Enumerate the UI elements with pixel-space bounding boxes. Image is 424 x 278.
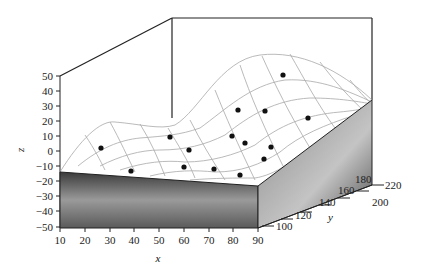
base-front-face — [60, 172, 258, 228]
z-axis-ticks — [56, 76, 60, 227]
svg-text:140: 140 — [319, 196, 336, 208]
svg-text:180: 180 — [355, 173, 372, 185]
svg-text:160: 160 — [338, 184, 355, 196]
z-axis-title: z — [14, 147, 26, 153]
svg-text:10: 10 — [42, 130, 54, 142]
svg-text:220: 220 — [385, 179, 402, 191]
svg-text:200: 200 — [372, 196, 389, 208]
svg-text:0: 0 — [48, 145, 54, 157]
svg-text:−30: −30 — [36, 190, 54, 202]
svg-text:40: 40 — [42, 85, 54, 97]
svg-text:−20: −20 — [36, 175, 54, 187]
svg-text:70: 70 — [204, 234, 216, 246]
svg-text:20: 20 — [42, 115, 54, 127]
svg-text:90: 90 — [253, 234, 265, 246]
surface-chart: 50 40 30 20 10 0 −10 −20 −30 −40 −50 z 1… — [0, 0, 424, 278]
y-axis-title: y — [327, 211, 333, 223]
back-frame — [60, 18, 372, 118]
svg-text:100: 100 — [276, 220, 293, 232]
z-axis-labels: 50 40 30 20 10 0 −10 −20 −30 −40 −50 — [36, 70, 54, 233]
svg-text:40: 40 — [129, 234, 141, 246]
svg-text:−10: −10 — [36, 160, 54, 172]
svg-text:50: 50 — [154, 234, 166, 246]
svg-text:−40: −40 — [36, 205, 54, 217]
svg-text:60: 60 — [179, 234, 191, 246]
x-axis-labels: 10 20 30 40 50 60 70 80 90 — [55, 234, 265, 246]
svg-text:30: 30 — [42, 100, 54, 112]
base-side-face — [258, 100, 372, 228]
svg-text:10: 10 — [55, 234, 67, 246]
svg-text:−50: −50 — [36, 221, 54, 233]
svg-text:80: 80 — [228, 234, 240, 246]
svg-text:50: 50 — [42, 70, 54, 82]
svg-text:120: 120 — [295, 209, 312, 221]
svg-text:30: 30 — [105, 234, 117, 246]
x-axis-ticks — [60, 228, 258, 232]
svg-text:20: 20 — [80, 234, 92, 246]
x-axis-title: x — [155, 252, 161, 264]
